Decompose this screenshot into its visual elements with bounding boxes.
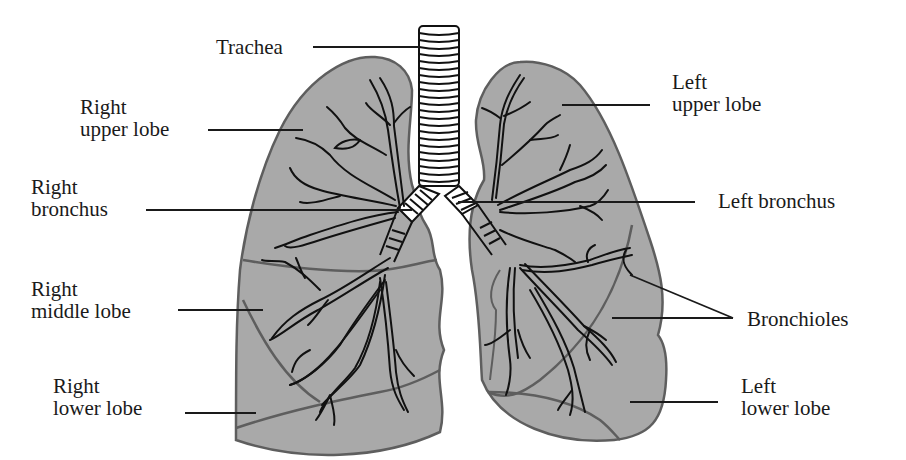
lung-diagram: Trachea Right upper lobe Right bronchus …	[0, 0, 906, 460]
label-right-middle-lobe-line1: Right	[31, 278, 131, 300]
label-right-upper-lobe-line2: upper lobe	[80, 118, 169, 140]
label-left-upper-lobe-line2: upper lobe	[672, 93, 761, 115]
label-right-bronchus: Right bronchus	[31, 176, 108, 220]
right-lung	[236, 57, 444, 455]
label-left-bronchus: Left bronchus	[718, 190, 835, 212]
label-right-lower-lobe-line1: Right	[53, 375, 142, 397]
label-right-upper-lobe-line1: Right	[80, 96, 169, 118]
label-right-bronchus-line2: bronchus	[31, 198, 108, 220]
label-left-upper-lobe-line1: Left	[672, 71, 761, 93]
label-trachea-text: Trachea	[216, 35, 283, 59]
label-left-bronchus-text: Left bronchus	[718, 189, 835, 213]
trachea	[419, 26, 459, 186]
label-right-lower-lobe: Right lower lobe	[53, 375, 142, 419]
label-left-lower-lobe: Left lower lobe	[741, 375, 830, 419]
label-bronchioles: Bronchioles	[747, 308, 848, 330]
label-left-lower-lobe-line2: lower lobe	[741, 397, 830, 419]
label-trachea: Trachea	[216, 36, 283, 58]
label-right-upper-lobe: Right upper lobe	[80, 96, 169, 140]
label-left-lower-lobe-line1: Left	[741, 375, 830, 397]
label-right-middle-lobe-line2: middle lobe	[31, 300, 131, 322]
label-bronchioles-text: Bronchioles	[747, 307, 848, 331]
label-right-middle-lobe: Right middle lobe	[31, 278, 131, 322]
label-left-upper-lobe: Left upper lobe	[672, 71, 761, 115]
label-right-bronchus-line1: Right	[31, 176, 108, 198]
label-right-lower-lobe-line2: lower lobe	[53, 397, 142, 419]
